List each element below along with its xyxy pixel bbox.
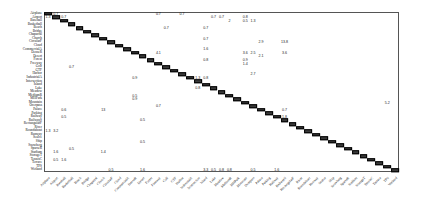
matrix-cell-value: 3.2: [53, 129, 58, 133]
diagonal-cell: [352, 151, 360, 155]
x-tick-label: SeaIce: [318, 176, 327, 185]
diagonal-cell: [304, 129, 312, 133]
matrix-cell-value: 0.8: [195, 86, 200, 90]
matrix-cell-value: 0.9: [132, 76, 137, 80]
diagonal-cell: [123, 48, 131, 52]
matrix-cell-value: 0.5: [61, 115, 66, 119]
matrix-cell-value: 0.7: [69, 65, 74, 69]
diagonal-cell: [91, 33, 99, 37]
diagonal-cell: [233, 97, 241, 101]
diagonal-cell: [139, 55, 147, 59]
matrix-cell-value: 5.2: [385, 101, 390, 105]
diagonal-cell: [162, 65, 170, 69]
matrix-cell-value: 1.6: [274, 168, 279, 172]
matrix-cell-value: 0.7: [282, 108, 287, 112]
matrix-cell-value: 0.7: [53, 12, 58, 16]
matrix-cell-value: 2.9: [258, 40, 263, 44]
diagonal-cell: [154, 62, 162, 66]
diagonal-cell: [367, 158, 375, 162]
diagonal-cell: [210, 87, 218, 91]
matrix-cell-value: 0.5: [243, 19, 248, 23]
matrix-cell-value: 2.7: [251, 72, 256, 76]
matrix-cell-value: 0.7: [61, 15, 66, 19]
matrix-cell-value: 0.5: [140, 140, 145, 144]
diagonal-cell: [170, 69, 178, 73]
matrix-cell-value: 1.6: [53, 150, 58, 154]
matrix-cell-value: 2.5: [251, 51, 256, 55]
matrix-cell-value: 0.8: [227, 168, 232, 172]
matrix-cell-value: 0.7: [203, 37, 208, 41]
diagonal-cell: [68, 23, 76, 27]
diagonal-cell: [52, 16, 60, 20]
matrix-cell-value: 0.5: [69, 147, 74, 151]
matrix-cell-value: 0.7: [164, 26, 169, 30]
matrix-cell-value: 0.8: [203, 58, 208, 62]
matrix-cell-value: 13.8: [281, 40, 288, 44]
matrix-cell-value: 0.5: [251, 168, 256, 172]
matrix-cell-value: 1.3: [45, 129, 50, 133]
diagonal-cell: [107, 40, 115, 44]
diagonal-cell: [241, 101, 249, 105]
diagonal-cell: [336, 144, 344, 148]
diagonal-cell: [328, 140, 336, 144]
diagonal-cell: [186, 76, 194, 80]
matrix-cell-value: 1.4: [243, 62, 248, 66]
diagonal-cell: [83, 30, 91, 34]
diagonal-cell: [344, 147, 352, 151]
matrix-cell-value: 0.7: [211, 15, 216, 19]
diagonal-cell: [225, 94, 233, 98]
x-tick-label: Golf: [162, 176, 169, 183]
diagonal-cell: [194, 80, 202, 84]
matrix-cell-value: 0.6: [61, 108, 66, 112]
matrix-cell-value: 1.3: [251, 19, 256, 23]
matrix-cell-value: 3.6: [282, 51, 287, 55]
diagonal-cell: [296, 126, 304, 130]
matrix-cell-value: 1.6: [140, 168, 145, 172]
diagonal-cell: [375, 161, 383, 165]
matrix-cell-value: 1.3: [45, 15, 50, 19]
matrix-cell-value: 4.1: [156, 51, 161, 55]
diagonal-cell: [289, 122, 297, 126]
diagonal-cell: [76, 26, 84, 30]
matrix-cell-value: 0.8: [219, 168, 224, 172]
matrix-cell-value: 0.7: [180, 12, 185, 16]
y-tick-label: Wetland: [31, 168, 42, 172]
diagonal-cell: [178, 72, 186, 76]
matrix-cell-value: 1.6: [61, 158, 66, 162]
diagonal-cell: [383, 165, 391, 169]
diagonal-cell: [115, 44, 123, 48]
matrix-cell-value: 3.3: [203, 168, 208, 172]
diagonal-cell: [360, 154, 368, 158]
matrix-cell-value: 1.8: [282, 115, 287, 119]
diagonal-cell: [202, 83, 210, 87]
matrix-cell-value: 0.5: [211, 168, 216, 172]
diagonal-cell: [281, 119, 289, 123]
matrix-cell-value: 0.7: [219, 15, 224, 19]
matrix-cell-value: 0.7: [203, 26, 208, 30]
diagonal-cell: [249, 104, 257, 108]
matrix-cell-value: 2.1: [258, 54, 263, 58]
matrix-cell-value: 2: [228, 19, 230, 23]
diagonal-cell: [312, 133, 320, 137]
diagonal-cell: [391, 168, 399, 172]
diagonal-cell: [99, 37, 107, 41]
diagonal-cell: [147, 58, 155, 62]
diagonal-cell: [218, 90, 226, 94]
diagonal-cell: [320, 136, 328, 140]
matrix-cell-value: 0.7: [156, 104, 161, 108]
diagonal-cell: [131, 51, 139, 55]
matrix-cell-value: 0.5: [53, 158, 58, 162]
diagonal-cell: [257, 108, 265, 112]
matrix-cell-value: 0.7: [156, 12, 161, 16]
matrix-cell-value: 0.5: [140, 118, 145, 122]
matrix-cell-value: 0.8: [203, 76, 208, 80]
matrix-cell-value: 13: [101, 108, 105, 112]
x-tick-label: Island: [200, 176, 209, 185]
diagonal-cell: [273, 115, 281, 119]
matrix-cell-value: 1.3: [195, 76, 200, 80]
matrix-cell-value: 3.6: [243, 51, 248, 55]
matrix-cell-value: 1.4: [101, 150, 106, 154]
diagonal-cell: [265, 112, 273, 116]
matrix-cell-value: 0.9: [132, 97, 137, 101]
diagonal-cell: [60, 19, 68, 23]
